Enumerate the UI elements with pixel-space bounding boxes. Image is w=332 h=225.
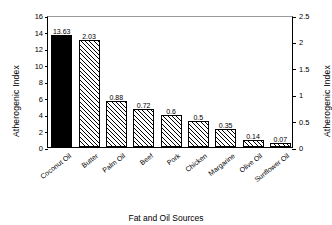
bar-value-label: 0.07	[260, 136, 300, 143]
y-right-tick-label: 0.5	[299, 119, 309, 127]
y-left-tick-label: 8	[3, 79, 43, 87]
x-category-label: Margarine	[184, 152, 236, 194]
y-left-tick-mark	[45, 116, 49, 117]
x-category-label: Coconut Oil	[20, 152, 72, 194]
y-right-tick-label: 1	[299, 92, 303, 100]
x-category-label: Butter	[48, 152, 100, 194]
y-axis-right-title: Atherogenic Index	[322, 65, 332, 137]
plot-area: 0246810121416 00.511.522.5 13.632.030.88…	[47, 16, 293, 148]
x-category-label: Pork	[130, 152, 182, 194]
bar-value-label: 0.88	[96, 94, 136, 101]
y-left-tick-label: 14	[3, 30, 43, 38]
bar-value-label: 0.5	[178, 114, 218, 121]
y-left-tick-label: 12	[3, 46, 43, 54]
atherogenic-index-bar-chart: Atherogenic Index Atherogenic Index Fat …	[0, 0, 332, 225]
y-left-tick-label: 4	[3, 112, 43, 120]
bar-value-label: 2.03	[69, 33, 109, 40]
y-right-tick-mark	[292, 17, 296, 18]
y-left-tick-mark	[45, 66, 49, 67]
x-axis-title: Fat and Oil Sources	[0, 213, 332, 223]
y-left-tick-label: 0	[3, 145, 43, 153]
y-left-tick-label: 16	[3, 13, 43, 21]
y-left-tick-mark	[45, 17, 49, 18]
x-category-label: Palm Oil	[75, 152, 127, 194]
y-right-tick-mark	[292, 43, 296, 44]
y-left-tick-label: 2	[3, 129, 43, 137]
x-category-label: Sunflower Oil	[239, 152, 291, 194]
y-left-tick-mark	[45, 149, 49, 150]
y-left-tick-label: 10	[3, 63, 43, 71]
y-left-tick-mark	[45, 83, 49, 84]
y-right-tick-label: 1.5	[299, 66, 309, 74]
y-right-tick-mark	[292, 69, 296, 70]
y-left-tick-mark	[45, 99, 49, 100]
y-left-tick-mark	[45, 50, 49, 51]
y-right-tick-label: 2.5	[299, 13, 309, 21]
y-left-tick-mark	[45, 132, 49, 133]
x-category-label: Beef	[102, 152, 154, 194]
bar-coconut-oil	[51, 35, 72, 147]
y-right-tick-mark	[292, 149, 296, 150]
y-right-tick-mark	[292, 96, 296, 97]
y-right-tick-mark	[292, 122, 296, 123]
bar-sunflower-oil	[270, 143, 291, 147]
y-right-tick-label: 2	[299, 39, 303, 47]
y-right-tick-label: 0	[299, 145, 303, 153]
x-category-label: Chicken	[157, 152, 209, 194]
x-category-label: Olive Oil	[212, 152, 264, 194]
y-left-tick-label: 6	[3, 96, 43, 104]
bar-value-label: 0.35	[206, 122, 246, 129]
